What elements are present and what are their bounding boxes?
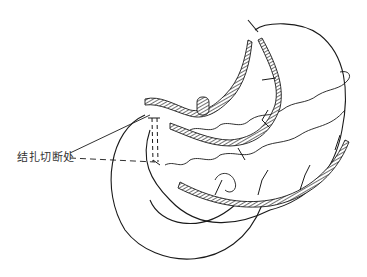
anatomical-diagram: 结扎切断处	[0, 0, 367, 277]
ligation-site-label: 结扎切断处	[17, 148, 75, 164]
label-leader-lines	[70, 115, 155, 162]
stomach-vessels-illustration	[0, 0, 367, 277]
ligature-marks	[148, 118, 160, 165]
